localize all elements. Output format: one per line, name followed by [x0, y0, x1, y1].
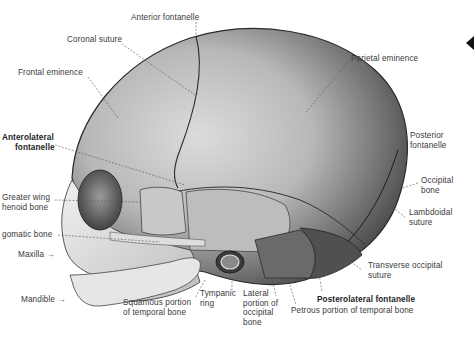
- label-posterior-fontanelle: Posterior fontanelle: [410, 131, 447, 150]
- page-edge-marker: [466, 36, 474, 50]
- label-maxilla: Maxilla →: [18, 250, 55, 260]
- label-lateral-occipital: Lateral portion of occipital bone: [243, 289, 278, 327]
- label-zygomatic-bone: gomatic bone: [2, 230, 52, 240]
- fetal-skull-figure: Anterior fontanelle Coronal suture Front…: [0, 0, 475, 337]
- skull-illustration: [0, 0, 475, 337]
- label-transverse-occipital-suture: Transverse occipital suture: [368, 261, 443, 280]
- greater-wing-plate: [140, 187, 186, 235]
- label-tympanic-ring: Tympanic ring: [200, 289, 236, 308]
- label-mandible: Mandible →: [21, 295, 66, 305]
- label-parietal-eminence: Parietal eminence: [351, 54, 418, 64]
- label-posterolateral-fontanelle: Posterolateral fontanelle: [317, 295, 415, 305]
- label-greater-wing-sphenoid: Greater wing henoid bone: [2, 193, 50, 212]
- label-coronal-suture: Coronal suture: [67, 35, 122, 45]
- label-anterolateral-fontanelle: Anterolateral fontanelle: [2, 133, 55, 152]
- label-occipital-bone: Occipital bone: [421, 176, 453, 195]
- label-anterior-fontanelle: Anterior fontanelle: [131, 13, 199, 23]
- label-lambdoidal-suture: Lambdoidal suture: [409, 208, 452, 227]
- label-frontal-eminence: Frontal eminence: [18, 68, 83, 78]
- label-petrous-temporal: Petrous portion of temporal bone: [291, 306, 413, 316]
- orbit: [78, 170, 122, 230]
- label-squamous-temporal: Squamous portion of temporal bone: [123, 298, 191, 317]
